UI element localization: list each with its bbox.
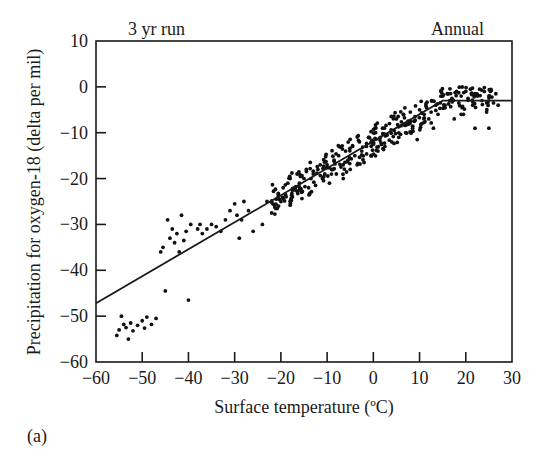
data-point	[436, 112, 440, 116]
data-point	[365, 152, 369, 156]
x-tick-label: 30	[503, 368, 521, 388]
y-tick-label: −10	[60, 123, 88, 143]
data-point	[283, 183, 287, 187]
data-point	[334, 152, 338, 156]
data-point	[287, 176, 291, 180]
data-point	[341, 177, 345, 181]
data-point	[392, 142, 396, 146]
data-point	[324, 152, 328, 156]
data-point	[367, 135, 371, 139]
data-point	[288, 199, 292, 203]
data-point	[311, 169, 315, 173]
data-point	[439, 94, 443, 98]
data-point	[303, 185, 307, 189]
data-point	[413, 118, 417, 122]
data-point	[348, 168, 352, 172]
data-point	[283, 199, 287, 203]
top-left-label: 3 yr run	[128, 19, 185, 39]
data-point	[196, 227, 200, 231]
data-point	[396, 115, 400, 119]
data-point	[375, 148, 379, 152]
x-tick-label: −50	[128, 368, 156, 388]
data-point	[168, 236, 172, 240]
data-point	[387, 138, 391, 142]
data-point	[411, 124, 415, 128]
data-point	[457, 85, 461, 89]
data-point	[389, 115, 393, 119]
data-point	[228, 209, 232, 213]
x-axis-label: Surface temperature (ºC)	[214, 397, 394, 418]
y-tick-label: −30	[60, 214, 88, 234]
data-point	[274, 187, 278, 191]
x-axis: −60−50−40−30−20−100102030	[82, 352, 521, 388]
data-point	[394, 132, 398, 136]
data-point	[182, 239, 186, 243]
data-point	[122, 322, 126, 326]
data-point	[487, 126, 491, 130]
data-point	[423, 120, 427, 124]
data-point	[150, 322, 154, 326]
data-point	[470, 93, 474, 97]
data-point	[338, 162, 342, 166]
data-point	[395, 141, 399, 145]
data-point	[198, 223, 202, 227]
data-point	[330, 172, 334, 176]
data-point	[180, 213, 184, 217]
data-point	[471, 86, 475, 90]
x-tick-label: −40	[174, 368, 202, 388]
data-point	[459, 94, 463, 98]
data-point	[427, 117, 431, 121]
data-point	[159, 250, 163, 254]
data-point	[340, 144, 344, 148]
data-point	[187, 298, 191, 302]
data-point	[120, 314, 124, 318]
data-point	[485, 108, 489, 112]
data-point	[475, 92, 479, 96]
data-point	[434, 108, 438, 112]
data-point	[452, 117, 456, 121]
data-point	[424, 102, 428, 106]
data-point	[379, 141, 383, 145]
data-point	[388, 122, 392, 126]
data-point	[290, 192, 294, 196]
data-point	[315, 165, 319, 169]
data-point	[145, 315, 149, 319]
x-tick-label: −10	[313, 368, 341, 388]
data-point	[312, 180, 316, 184]
data-point	[494, 92, 498, 96]
data-point	[370, 154, 374, 158]
data-point	[369, 144, 373, 148]
data-point	[371, 148, 375, 152]
data-point	[189, 223, 193, 227]
scatter-chart: 3 yr run Annual 100−10−20−30−40−50−60 −6…	[0, 0, 545, 456]
data-point	[492, 101, 496, 105]
x-tick-label: −30	[221, 368, 249, 388]
x-tick-label: 20	[457, 368, 475, 388]
data-point	[173, 241, 177, 245]
x-tick-label: −20	[267, 368, 295, 388]
data-point	[274, 206, 278, 210]
data-point	[372, 131, 376, 135]
data-point	[403, 106, 407, 110]
data-point	[126, 337, 130, 341]
data-point	[163, 289, 167, 293]
data-point	[305, 170, 309, 174]
data-point	[417, 116, 421, 120]
data-point	[408, 130, 412, 134]
y-tick-label: 10	[70, 31, 88, 51]
data-point	[462, 91, 466, 95]
data-point	[393, 111, 397, 115]
data-point	[391, 135, 395, 139]
data-point	[348, 137, 352, 141]
data-point	[161, 245, 165, 249]
data-point	[200, 232, 204, 236]
data-point	[481, 103, 485, 107]
data-point	[124, 326, 128, 330]
data-point	[131, 329, 135, 333]
data-point	[446, 92, 450, 96]
data-point	[419, 123, 423, 127]
data-point	[341, 163, 345, 167]
data-point	[414, 104, 418, 108]
data-point	[140, 319, 144, 323]
y-tick-label: −40	[60, 260, 88, 280]
